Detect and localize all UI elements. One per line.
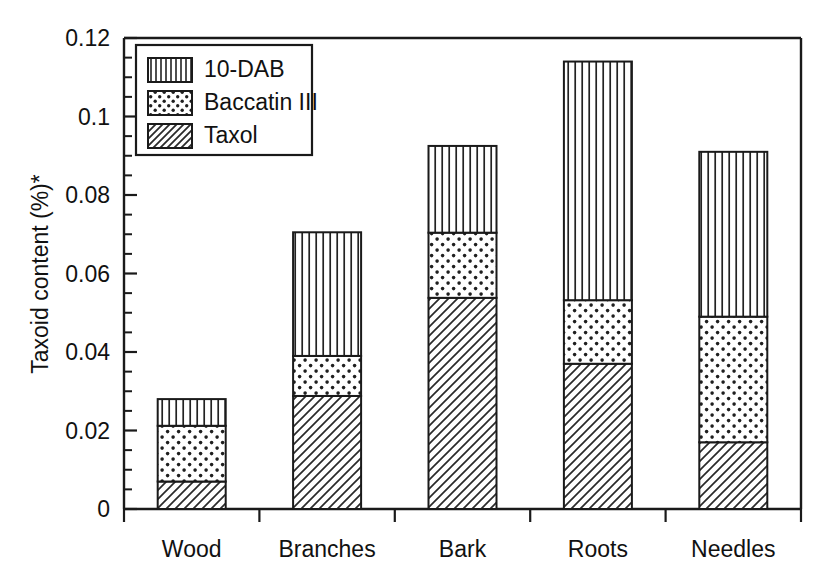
- y-tick-label: 0.06: [65, 261, 110, 287]
- x-category-label: Branches: [279, 536, 376, 562]
- bar-segment-10-dab: [699, 152, 767, 317]
- x-category-label: Bark: [439, 536, 487, 562]
- x-category-label: Wood: [162, 536, 222, 562]
- y-tick-label: 0.02: [65, 418, 110, 444]
- bar-segment-baccatin-iii: [158, 426, 226, 482]
- bar-segment-baccatin-iii: [564, 300, 632, 364]
- legend-swatch-taxol: [148, 124, 192, 148]
- x-category-label: Needles: [691, 536, 775, 562]
- bar-needles: [699, 152, 767, 509]
- bar-branches: [293, 232, 361, 509]
- bar-segment-taxol: [158, 482, 226, 509]
- bar-segment-10-dab: [293, 232, 361, 356]
- bar-bark: [429, 146, 497, 509]
- y-tick-label: 0.08: [65, 182, 110, 208]
- legend: 10-DABBaccatin IIITaxol: [136, 45, 318, 155]
- chart-figure: 00.020.040.060.080.10.12 WoodBranchesBar…: [0, 0, 836, 577]
- legend-label: Baccatin III: [204, 89, 318, 115]
- bar-segment-baccatin-iii: [699, 317, 767, 443]
- y-tick-label: 0: [97, 496, 110, 522]
- y-tick-label: 0.12: [65, 25, 110, 51]
- bar-wood: [158, 399, 226, 509]
- y-tick-label: 0.1: [78, 104, 110, 130]
- bar-segment-baccatin-iii: [429, 233, 497, 298]
- bar-segment-10-dab: [429, 146, 497, 233]
- bar-segment-taxol: [699, 442, 767, 509]
- legend-swatch-baccatin-iii: [148, 91, 192, 115]
- y-axis-title: Taxoid content (%)*: [27, 174, 53, 373]
- legend-label: 10-DAB: [204, 56, 285, 82]
- y-tick-label: 0.04: [65, 339, 110, 365]
- bar-segment-10-dab: [158, 399, 226, 426]
- taxoid-content-stacked-bar-chart: 00.020.040.060.080.10.12 WoodBranchesBar…: [0, 0, 836, 577]
- bar-segment-taxol: [429, 298, 497, 509]
- bar-segment-taxol: [564, 364, 632, 509]
- x-category-label: Roots: [568, 536, 628, 562]
- legend-swatch-10-dab: [148, 58, 192, 82]
- bar-roots: [564, 62, 632, 509]
- bar-segment-taxol: [293, 396, 361, 509]
- legend-label: Taxol: [204, 122, 258, 148]
- bar-segment-baccatin-iii: [293, 356, 361, 396]
- bar-segment-10-dab: [564, 62, 632, 301]
